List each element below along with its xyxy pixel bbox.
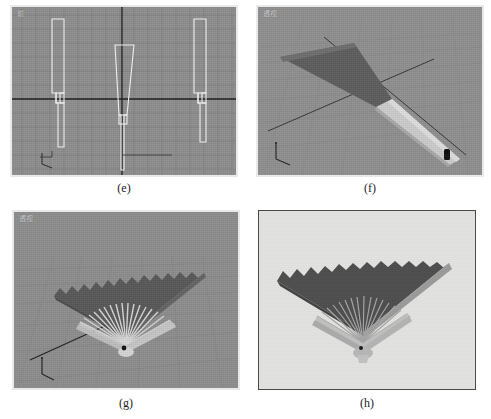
caption-g: (g) [12, 396, 240, 411]
figure-panel-f: 透视 (f) [256, 5, 484, 200]
viewport-label-g: 透视 [19, 215, 34, 224]
viewport-h[interactable] [258, 210, 476, 390]
viewport-e-canvas [12, 7, 236, 175]
viewport-e[interactable]: 前 [10, 5, 238, 177]
caption-f: (f) [256, 181, 484, 196]
pivot-rivet-icon [444, 149, 450, 160]
viewport-g-canvas [14, 212, 238, 388]
viewport-f-canvas [258, 7, 482, 175]
figure-panel-h: (h) [258, 210, 484, 415]
viewport-g[interactable]: 透视 [12, 210, 240, 390]
figure-panel-g: 透视 (g) [12, 210, 240, 415]
caption-h: (h) [258, 396, 476, 411]
figure-panel-grid: 前 (e) [0, 0, 491, 419]
render-h-canvas [259, 211, 475, 389]
viewport-label-e: 前 [17, 10, 24, 19]
viewport-label-f: 透视 [263, 10, 278, 19]
viewport-f[interactable]: 透视 [256, 5, 484, 177]
caption-e: (e) [10, 181, 238, 196]
figure-panel-e: 前 (e) [10, 5, 238, 200]
